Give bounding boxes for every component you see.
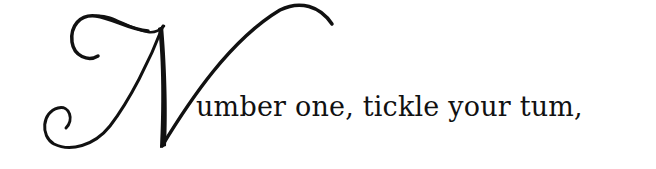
verse-line: umber one, tickle your tum, — [196, 91, 583, 122]
drop-cap-n-ornament: N — [0, 0, 350, 169]
